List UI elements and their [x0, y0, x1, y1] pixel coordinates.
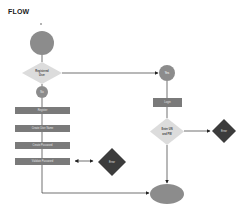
anchor-dot [40, 23, 42, 25]
error-right-node[interactable]: Error [212, 119, 236, 143]
validate-password-box[interactable]: Validate Password [15, 158, 70, 165]
create-password-box[interactable]: Create Password [15, 142, 70, 149]
yes-label: Yes [165, 71, 170, 75]
yes-node[interactable]: Yes [159, 65, 175, 81]
error-left-label: Error [109, 160, 115, 164]
register-label: Register [38, 108, 48, 112]
error-left-node[interactable]: Error [98, 148, 126, 176]
registered-user-decision[interactable]: Registered User [22, 62, 62, 84]
no-label: No [40, 90, 44, 94]
create-password-label: Create Password [33, 143, 53, 147]
login-label: Login [164, 100, 171, 104]
register-box[interactable]: Register [15, 107, 70, 114]
no-node[interactable]: No [36, 86, 48, 98]
registered-user-label-2: User [39, 73, 45, 77]
create-user-name-label: Create User Name [32, 126, 54, 130]
create-user-name-box[interactable]: Create User Name [15, 125, 70, 132]
enter-credentials-label-1: Enter UN [161, 127, 172, 131]
enter-credentials-label-2: and PW [162, 132, 172, 136]
enter-credentials-decision[interactable]: Enter UN and PW [150, 118, 184, 145]
login-box[interactable]: Login [153, 98, 182, 107]
flowchart: Registered User No Register Create User … [0, 0, 250, 214]
connectors [42, 55, 210, 193]
error-right-label: Error [221, 129, 227, 133]
end-node[interactable] [150, 184, 184, 204]
validate-password-label: Validate Password [32, 159, 54, 163]
registered-user-label-1: Registered [35, 69, 49, 73]
start-node[interactable] [30, 31, 54, 55]
